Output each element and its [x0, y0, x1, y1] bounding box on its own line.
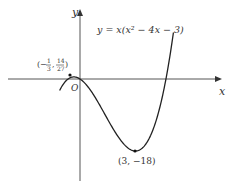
local-min-point	[133, 149, 136, 152]
svg-text:,: ,	[52, 60, 55, 69]
svg-text:1: 1	[47, 57, 51, 64]
svg-text:3: 3	[47, 65, 51, 72]
x-axis-arrow-icon	[215, 76, 222, 82]
svg-text:14: 14	[57, 57, 65, 64]
svg-text:): )	[65, 60, 68, 69]
y-axis-label: y	[71, 6, 79, 19]
svg-text:(−: (−	[37, 60, 47, 69]
max-point-label: (− 1 3 , 14 27 )	[37, 57, 68, 72]
x-axis-label: x	[219, 85, 226, 98]
equation-label: y = x(x² − 4x − 3)	[96, 24, 184, 35]
svg-text:27: 27	[57, 65, 65, 72]
origin-label: O	[71, 83, 79, 93]
min-point-label: (3, −18)	[118, 156, 155, 166]
cubic-graph: y x O y = x(x² − 4x − 3) (− 1 3 , 14 27 …	[0, 0, 233, 181]
local-max-point	[68, 73, 71, 76]
